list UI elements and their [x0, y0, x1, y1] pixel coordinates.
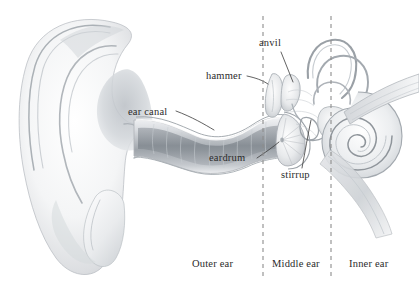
ear-anatomy-figure: anvil hammer ear canal eardrum stirrup O…	[0, 0, 419, 290]
hammer-bone	[265, 74, 283, 118]
ear-anatomy-illustration	[0, 0, 419, 290]
eardrum-umbo	[280, 138, 284, 143]
inner-ear-group	[308, 40, 419, 238]
leader-ear-canal	[176, 111, 214, 130]
region-label-middle-ear: Middle ear	[272, 259, 320, 270]
label-ear-canal: ear canal	[128, 107, 167, 118]
eardrum-group	[276, 112, 310, 169]
semicircular-canal-lateral	[314, 82, 351, 104]
label-hammer: hammer	[206, 71, 242, 82]
pinna-group	[19, 19, 152, 274]
ear-canal-group	[134, 114, 285, 174]
semicircular-canal-superior	[308, 40, 357, 98]
region-label-inner-ear: Inner ear	[349, 259, 388, 270]
label-eardrum: eardrum	[209, 153, 245, 164]
region-label-outer-ear: Outer ear	[192, 259, 233, 270]
leader-hammer	[247, 76, 268, 84]
label-anvil: anvil	[259, 38, 281, 49]
anvil-bone	[281, 75, 300, 112]
label-stirrup: stirrup	[281, 170, 310, 181]
